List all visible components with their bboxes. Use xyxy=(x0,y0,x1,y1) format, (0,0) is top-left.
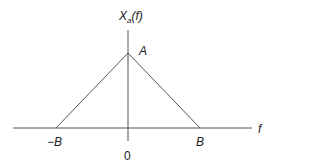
y-axis-label: Xa(f) xyxy=(119,10,143,25)
origin-label: 0 xyxy=(124,150,131,162)
x-axis-label: f xyxy=(258,123,261,135)
peak-label: A xyxy=(139,45,147,57)
neg-bandwidth-label: −B xyxy=(47,136,62,148)
bandwidth-label: B xyxy=(196,136,204,148)
